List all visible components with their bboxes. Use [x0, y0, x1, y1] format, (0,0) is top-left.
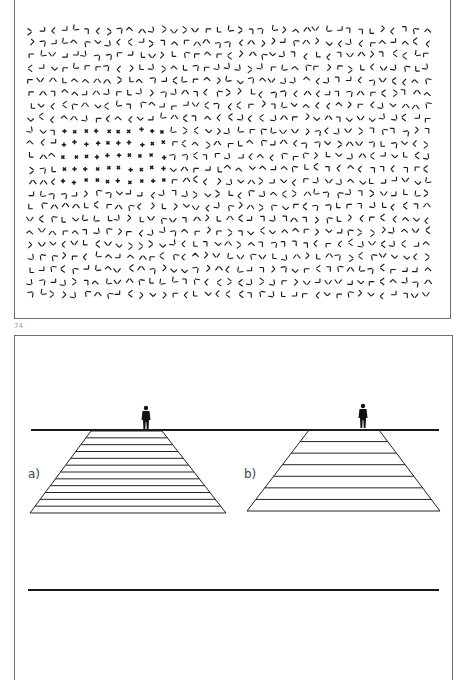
label-a: a) [28, 467, 40, 481]
person-icon-a [142, 406, 151, 430]
trapezoid-a-icon [30, 431, 226, 513]
trapezoid-b-icon [247, 430, 440, 511]
perspective-graphic [15, 336, 454, 681]
texture-figure-panel [14, 0, 451, 319]
perspective-figure-panel: a) b) [14, 335, 453, 680]
label-b: b) [244, 467, 256, 481]
person-icon-b [359, 404, 368, 428]
texture-field-graphic [15, 0, 452, 319]
page-number: 74 [14, 322, 23, 330]
